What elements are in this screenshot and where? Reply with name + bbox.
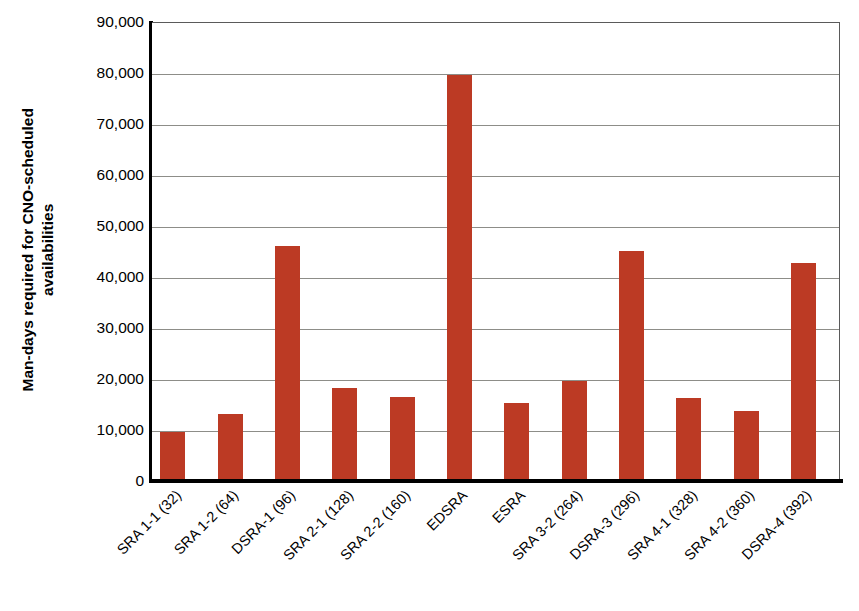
y-axis-title-line-2: availabilities <box>38 108 58 391</box>
bar <box>332 388 357 481</box>
y-axis-tick-label: 90,000 <box>58 13 144 31</box>
bar <box>734 411 759 481</box>
y-axis-tick-label: 40,000 <box>58 268 144 286</box>
y-axis-tick-label: 80,000 <box>58 64 144 82</box>
bar <box>504 403 529 481</box>
bar <box>562 381 587 481</box>
y-axis-tick-labels: 010,00020,00030,00040,00050,00060,00070,… <box>58 0 144 611</box>
y-axis-tick-label: 30,000 <box>58 319 144 337</box>
y-axis-tick-label: 20,000 <box>58 370 144 388</box>
plot-area <box>152 22 840 481</box>
y-axis-tick-label: 0 <box>58 472 144 490</box>
y-axis-tick-label: 50,000 <box>58 217 144 235</box>
y-axis-tick-label: 10,000 <box>58 421 144 439</box>
y-axis-tick-label: 60,000 <box>58 166 144 184</box>
bar <box>619 251 644 481</box>
bar <box>676 398 701 481</box>
bar <box>160 432 185 481</box>
bar <box>218 414 243 481</box>
bar <box>447 75 472 481</box>
bar <box>275 246 300 481</box>
y-axis-tick-label: 70,000 <box>58 115 144 133</box>
x-axis-tick-labels: SRA 1-1 (32)SRA 1-2 (64)DSRA-1 (96)SRA 2… <box>152 481 859 611</box>
bars-layer <box>152 23 839 481</box>
y-axis-title-line-1: Man-days required for CNO-scheduled <box>18 108 38 391</box>
bar-chart: Man-days required for CNO-scheduled avai… <box>0 0 859 611</box>
bar <box>390 397 415 481</box>
bar <box>791 263 816 481</box>
